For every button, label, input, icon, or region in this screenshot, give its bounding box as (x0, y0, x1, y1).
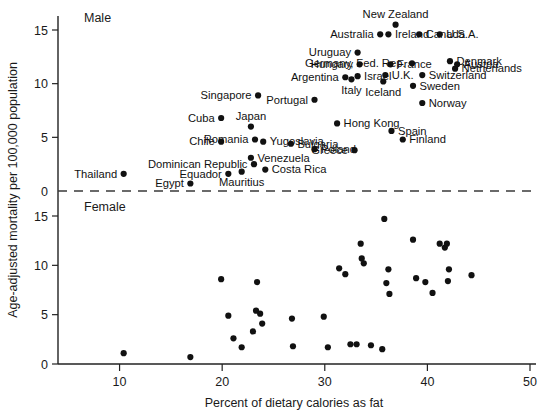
country-label: Argentina (291, 71, 340, 83)
data-point-male (419, 72, 425, 78)
country-label: U.K. (392, 69, 414, 81)
country-label: Australia (330, 28, 374, 40)
y-tick-label-female: 15 (34, 210, 48, 224)
plot-canvas: ThailandEgyptEquadorMauritiusDominican R… (0, 0, 554, 414)
country-label: Cuba (188, 112, 216, 124)
y-tick-label-male: 5 (41, 131, 48, 145)
country-label: Greece (311, 144, 348, 156)
y-tick-label-male: 10 (34, 77, 48, 91)
data-point-female (254, 279, 260, 285)
data-point-male (248, 124, 254, 130)
panel-label-male: Male (84, 11, 111, 25)
data-point-female (259, 320, 265, 326)
country-label: Norway (429, 97, 467, 109)
data-point-female (218, 276, 224, 282)
scatter-plot-figure: ThailandEgyptEquadorMauritiusDominican R… (0, 0, 554, 414)
data-point-female (347, 341, 353, 347)
data-point-female (468, 272, 474, 278)
country-label: Mauritius (219, 176, 265, 188)
data-point-female (321, 314, 327, 320)
country-label: Iceland (365, 86, 401, 98)
country-label: Portugal (266, 94, 308, 106)
data-point-female (368, 342, 374, 348)
data-point-female (410, 237, 416, 243)
data-point-male (187, 180, 193, 186)
panel-label-female: Female (84, 200, 126, 214)
data-point-female (239, 344, 245, 350)
data-point-female (353, 341, 359, 347)
country-label: Germany, Fed. Rep. (305, 57, 406, 69)
data-point-male (355, 49, 361, 55)
data-point-male (252, 136, 258, 142)
data-point-male (121, 171, 127, 177)
country-label: Venezuela (257, 152, 310, 164)
data-point-female (187, 354, 193, 360)
data-point-male (262, 166, 268, 172)
data-point-female (385, 266, 391, 272)
data-point-female (422, 279, 428, 285)
y-axis-title: Age-adjusted mortality per 100,000 popul… (6, 62, 20, 318)
data-point-female (358, 241, 364, 247)
data-point-male (218, 115, 224, 121)
x-tick-label: 50 (523, 375, 537, 389)
data-point-female (386, 291, 392, 297)
data-point-male (400, 136, 406, 142)
data-point-male (355, 73, 361, 79)
country-label: Thailand (74, 168, 117, 180)
data-point-female (429, 290, 435, 296)
country-label: Romania (204, 133, 250, 145)
x-tick-label: 10 (113, 375, 127, 389)
x-tick-label: 40 (420, 375, 434, 389)
country-label: Costa Rica (272, 163, 327, 175)
country-label: Israel (364, 70, 391, 82)
country-label: Italy (341, 84, 362, 96)
y-tick-label-female: 10 (34, 259, 48, 273)
data-point-male (255, 92, 261, 98)
data-point-female (290, 343, 296, 349)
data-point-male (377, 31, 383, 37)
data-point-female (446, 266, 452, 272)
data-point-male (348, 76, 354, 82)
data-point-male (447, 58, 453, 64)
data-point-female (336, 265, 342, 271)
x-axis-title: Percent of dietary calories as fat (205, 396, 384, 410)
data-point-female (225, 313, 231, 319)
country-label: Austria (464, 58, 500, 70)
x-tick-label: 20 (215, 375, 229, 389)
country-label: Sweden (420, 80, 460, 92)
y-tick-label-female: 0 (41, 358, 48, 372)
country-label: New Zealand (363, 8, 429, 20)
data-point-female (444, 241, 450, 247)
country-label: U.S.A. (446, 28, 478, 40)
y-tick-label-female: 5 (41, 308, 48, 322)
data-point-male (248, 155, 254, 161)
data-point-female (381, 216, 387, 222)
y-tick-label-male: 15 (34, 24, 48, 38)
x-tick-label: 30 (318, 375, 332, 389)
data-point-male (342, 74, 348, 80)
data-point-male (334, 120, 340, 126)
y-tick-label-male: 0 (41, 185, 48, 199)
data-point-male (251, 161, 257, 167)
data-point-female (437, 241, 443, 247)
data-point-female (342, 271, 348, 277)
data-point-female (257, 311, 263, 317)
data-point-female (413, 275, 419, 281)
data-point-male (311, 97, 317, 103)
country-label: Japan (236, 110, 266, 122)
data-point-female (121, 350, 127, 356)
country-labels-layer: ThailandEgyptEquadorMauritiusDominican R… (74, 8, 522, 189)
data-point-male (419, 100, 425, 106)
data-point-female (250, 328, 256, 334)
country-label: Hong Kong (344, 117, 400, 129)
data-point-male (392, 22, 398, 28)
country-label: Dominican Republic (148, 158, 248, 170)
data-point-female (325, 344, 331, 350)
country-label: Ireland (395, 28, 429, 40)
data-point-male (385, 31, 391, 37)
data-point-female (361, 260, 367, 266)
data-point-female (383, 280, 389, 286)
data-point-female (445, 278, 451, 284)
data-point-male (410, 83, 416, 89)
data-point-male (260, 139, 266, 145)
